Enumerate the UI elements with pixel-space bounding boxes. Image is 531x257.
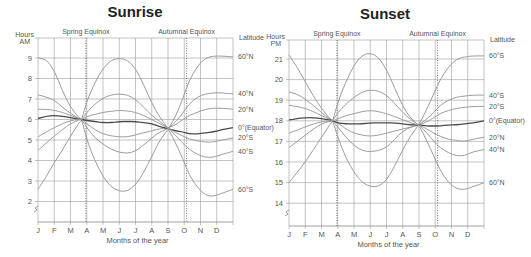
x-tick-label: A: [335, 230, 340, 239]
autumnal-equinox-label: Autumnal Equinox: [409, 30, 466, 38]
y-tick-label: 15: [275, 178, 283, 187]
x-tick-label: M: [100, 226, 106, 235]
x-tick-label: D: [214, 226, 220, 235]
y-tick-label: 8: [28, 74, 32, 83]
x-tick-label: A: [149, 226, 154, 235]
latitude-series-label: 20°S: [238, 134, 254, 141]
chart-title: Sunset: [360, 5, 410, 22]
latitude-series-label: 60°S: [489, 52, 505, 59]
x-tick-label: A: [400, 230, 405, 239]
x-tick-label: O: [181, 226, 187, 235]
x-tick-label: A: [84, 226, 89, 235]
y-tick-label: 14: [275, 199, 283, 208]
latitude-series-label: 0°(Equator): [489, 117, 525, 125]
x-axis-label: Months of the year: [106, 236, 169, 245]
x-tick-label: F: [303, 230, 308, 239]
y-tick-label: 17: [275, 137, 283, 146]
y-tick-label: 3: [28, 177, 32, 186]
x-tick-label: M: [318, 230, 324, 239]
latitude-series-label: 20°S: [489, 103, 505, 110]
y-tick-label: 5: [28, 136, 32, 145]
latitude-series-label: 40°S: [489, 92, 505, 99]
y-axis-label: Hours: [15, 31, 34, 38]
x-tick-label: F: [52, 226, 57, 235]
y-tick-label: 7: [28, 95, 32, 104]
x-tick-label: M: [67, 226, 73, 235]
latitude-label: Latitude: [490, 36, 515, 43]
latitude-series-label: 20°N: [489, 134, 505, 141]
spring-equinox-label: Spring Equinox: [313, 30, 361, 38]
sunrise-sunset-charts: Sunrise23456789HoursAMLatitudeJFMAMJJASO…: [0, 0, 531, 257]
x-tick-label: S: [416, 230, 421, 239]
y-axis-unit: PM: [271, 40, 282, 47]
latitude-series-label: 60°S: [238, 186, 254, 193]
x-tick-label: J: [134, 226, 138, 235]
y-tick-label: 21: [275, 55, 283, 64]
y-axis-unit: AM: [20, 38, 31, 45]
latitude-series-label: 40°N: [238, 90, 254, 97]
spring-equinox-label: Spring Equinox: [62, 28, 110, 36]
y-tick-label: 4: [28, 156, 32, 165]
x-tick-label: J: [36, 226, 40, 235]
latitude-label: Latitude: [239, 34, 264, 41]
axis-break-icon: [285, 210, 289, 216]
x-tick-label: J: [287, 230, 291, 239]
latitude-series-label: 40°S: [238, 148, 254, 155]
latitude-series-label: 40°N: [489, 146, 505, 153]
y-tick-label: 9: [28, 54, 32, 63]
latitude-series-label: 0°(Equator): [238, 124, 274, 132]
x-tick-label: N: [198, 226, 203, 235]
y-tick-label: 2: [28, 197, 32, 206]
x-tick-label: S: [165, 226, 170, 235]
x-tick-label: J: [117, 226, 121, 235]
latitude-series-label: 60°N: [238, 53, 254, 60]
x-tick-label: J: [385, 230, 389, 239]
axis-break-icon: [34, 206, 38, 212]
x-tick-label: M: [351, 230, 357, 239]
y-tick-label: 19: [275, 96, 283, 105]
x-axis-label: Months of the year: [357, 240, 420, 249]
y-tick-label: 6: [28, 115, 32, 124]
x-tick-label: D: [465, 230, 471, 239]
y-tick-label: 20: [275, 75, 283, 84]
latitude-series-label: 20°N: [238, 106, 254, 113]
chart-title: Sunrise: [107, 3, 162, 20]
x-tick-label: J: [368, 230, 372, 239]
latitude-series-label: 60°N: [489, 179, 505, 186]
y-axis-label: Hours: [266, 33, 285, 40]
autumnal-equinox-label: Autumnal Equinox: [158, 28, 215, 36]
x-tick-label: N: [449, 230, 454, 239]
y-tick-label: 18: [275, 116, 283, 125]
y-tick-label: 16: [275, 158, 283, 167]
x-tick-label: O: [432, 230, 438, 239]
